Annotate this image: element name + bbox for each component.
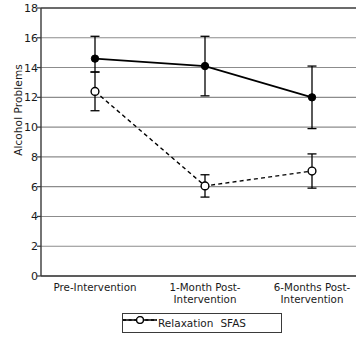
data-point-marker bbox=[308, 167, 316, 175]
data-point-marker bbox=[201, 62, 208, 69]
legend-label-relaxation: Relaxation bbox=[158, 317, 213, 329]
chart-legend: Relaxation SFAS bbox=[122, 313, 282, 333]
x-tick-label: 1-Month Post- Intervention bbox=[145, 281, 265, 306]
x-tick-label: 6-Months Post- Intervention bbox=[252, 281, 363, 306]
x-tick-label: Pre-Intervention bbox=[35, 281, 155, 293]
data-point-marker bbox=[91, 55, 98, 62]
legend-label-sfas: SFAS bbox=[220, 317, 246, 329]
legend-entry-sfas: SFAS bbox=[220, 317, 246, 329]
data-point-marker bbox=[201, 182, 209, 190]
data-point-marker bbox=[91, 87, 99, 95]
series-line-sfas bbox=[95, 91, 312, 186]
legend-entry-relaxation: Relaxation bbox=[158, 317, 213, 329]
chart-container: Alcohol Problems 181614121086420 Pre-Int… bbox=[0, 0, 363, 339]
legend-swatch-dashed-open-circle bbox=[123, 314, 157, 326]
data-point-marker bbox=[308, 94, 315, 101]
